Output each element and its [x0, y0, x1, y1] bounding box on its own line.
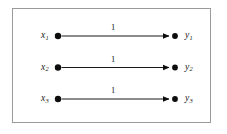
- edge-weight-label-1: 1: [111, 23, 115, 32]
- node-label-y2-subscript: 2: [189, 65, 192, 72]
- edge-weight-label-3: 1: [111, 86, 115, 95]
- node-label-x3-subscript: 3: [45, 97, 48, 104]
- node-label-x1: x1: [41, 31, 49, 41]
- node-label-y1-subscript: 1: [189, 34, 192, 41]
- node-label-y1: y1: [185, 31, 193, 41]
- node-label-y3: y3: [185, 94, 193, 104]
- node-dot-x2[interactable]: [55, 64, 61, 70]
- node-label-x2: x2: [41, 63, 49, 73]
- node-label-y2: y2: [185, 63, 193, 73]
- node-label-x1-subscript: 1: [45, 34, 48, 41]
- edge-weight-label-2: 1: [111, 55, 115, 64]
- node-label-x3: x3: [41, 94, 49, 104]
- node-dot-y1[interactable]: [172, 33, 178, 39]
- node-dot-y3[interactable]: [172, 96, 178, 102]
- figure-root: x1 x2 x3 y1 y2 y3 1 1 1: [0, 0, 227, 134]
- node-dot-y2[interactable]: [172, 65, 178, 71]
- node-dot-x1[interactable]: [55, 33, 61, 39]
- node-label-y3-subscript: 3: [189, 97, 192, 104]
- node-label-x2-subscript: 2: [45, 65, 48, 72]
- node-dot-x3[interactable]: [55, 96, 61, 102]
